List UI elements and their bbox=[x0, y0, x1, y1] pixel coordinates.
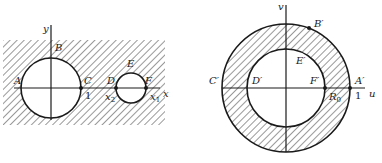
label-F: F bbox=[144, 75, 153, 86]
label-A: A bbox=[13, 75, 21, 86]
label-C-prime: C′ bbox=[209, 75, 220, 86]
point-one-dot bbox=[79, 86, 83, 90]
right-w-plane: v B′ E′ C′ D′ F′ A′ R0 1 u bbox=[209, 1, 375, 152]
point-B-prime-dot bbox=[307, 26, 311, 30]
point-A-prime-dot bbox=[348, 86, 352, 90]
tick-one-label-right: 1 bbox=[355, 90, 361, 101]
label-B-prime: B′ bbox=[313, 18, 324, 29]
x-axis-label: x bbox=[163, 88, 169, 99]
conformal-map-diagram: y B A C 1 D E F x2 x1 x v B′ E′ C′ D′ bbox=[0, 0, 382, 163]
label-C: C bbox=[84, 75, 92, 86]
left-z-plane: y B A C 1 D E F x2 x1 x bbox=[3, 23, 169, 125]
label-E: E bbox=[126, 58, 135, 69]
point-x2-dot bbox=[114, 86, 118, 90]
point-R0-dot bbox=[323, 86, 327, 90]
label-E-prime: E′ bbox=[295, 55, 306, 66]
label-F-prime: F′ bbox=[309, 75, 320, 86]
u-axis-label: u bbox=[369, 88, 375, 99]
label-D: D bbox=[106, 75, 115, 86]
point-x1-dot bbox=[144, 86, 148, 90]
label-B: B bbox=[54, 42, 62, 53]
tick-one-label: 1 bbox=[85, 90, 91, 101]
label-D-prime: D′ bbox=[251, 75, 263, 86]
label-A-prime: A′ bbox=[354, 75, 365, 86]
y-axis-label: y bbox=[42, 23, 49, 34]
v-axis-label: v bbox=[278, 1, 284, 12]
